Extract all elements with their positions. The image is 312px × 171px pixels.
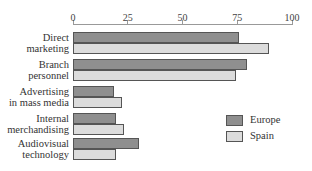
category-label: Internalmerchandising xyxy=(0,113,69,135)
bar-europe xyxy=(73,32,239,43)
category-label: Directmarketing xyxy=(0,32,69,54)
bar-europe xyxy=(73,59,247,70)
bar-spain xyxy=(73,70,236,81)
bar-europe xyxy=(73,138,139,149)
category-label-line: Advertising xyxy=(0,86,69,97)
category-label-line: merchandising xyxy=(0,124,69,135)
legend-swatch-spain xyxy=(226,131,243,142)
legend-item-spain: Spain xyxy=(226,131,306,145)
x-tick-label: 75 xyxy=(232,12,242,23)
category-label-line: Direct xyxy=(0,32,69,43)
category-label-line: in mass media xyxy=(0,97,69,108)
bar-europe xyxy=(73,86,114,97)
legend-label-europe: Europe xyxy=(250,114,280,125)
legend-label-spain: Spain xyxy=(250,130,274,141)
category-label-line: Branch xyxy=(0,59,69,70)
category-label: Advertisingin mass media xyxy=(0,86,69,108)
x-tick-label: 0 xyxy=(71,12,76,23)
bar-europe xyxy=(73,113,116,124)
category-label-line: marketing xyxy=(0,43,69,54)
x-tick-label: 50 xyxy=(178,12,188,23)
legend-item-europe: Europe xyxy=(226,115,306,129)
x-tick-label: 100 xyxy=(285,12,300,23)
bar-spain xyxy=(73,124,124,135)
legend-swatch-europe xyxy=(226,115,243,126)
x-tick-label: 25 xyxy=(123,12,133,23)
horizontal-bar-chart: 0255075100 DirectmarketingBranchpersonne… xyxy=(0,0,312,171)
category-label: Branchpersonnel xyxy=(0,59,69,81)
category-label: Audiovisualtechnology xyxy=(0,138,69,160)
category-label-line: Internal xyxy=(0,113,69,124)
bar-spain xyxy=(73,149,116,160)
category-label-line: Audiovisual xyxy=(0,138,69,149)
bar-spain xyxy=(73,43,269,54)
category-label-line: technology xyxy=(0,149,69,160)
bar-spain xyxy=(73,97,122,108)
category-label-line: personnel xyxy=(0,70,69,81)
